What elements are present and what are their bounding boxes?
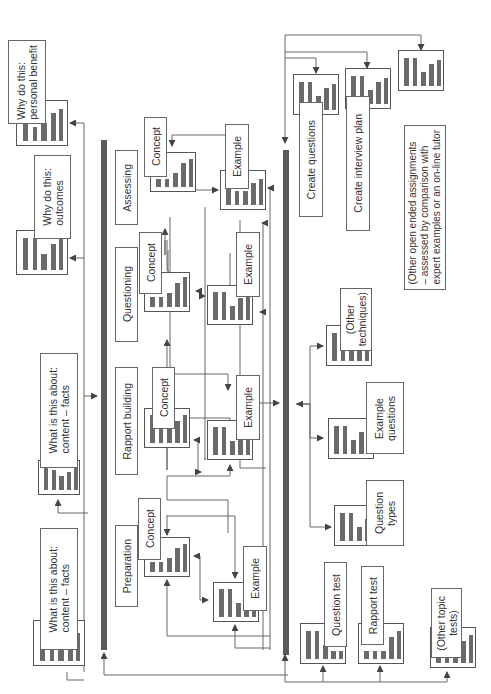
course-structure-diagram: Why do this: personal benefit Why do thi… bbox=[0, 0, 491, 694]
label-assessing-example[interactable]: Example bbox=[225, 124, 249, 189]
label-why-outcomes: Why do this: outcomes bbox=[34, 155, 71, 239]
topic-title-rapport: Rapport building bbox=[115, 367, 138, 475]
label-text: Rapport test bbox=[367, 577, 379, 634]
topic-title-preparation: Preparation bbox=[115, 525, 138, 607]
topic-title-text: Assessing bbox=[121, 164, 133, 212]
note-text: (Other open ended assignments – assessed… bbox=[407, 130, 443, 285]
label-other-topic-tests[interactable]: (Other topic tests) bbox=[431, 588, 462, 658]
topic-title-questioning: Questioning bbox=[115, 247, 138, 342]
topic-title-text: Rapport building bbox=[121, 383, 133, 459]
label-text: (Other topic tests) bbox=[435, 596, 459, 651]
label-create-interview-plan[interactable]: Create interview plan bbox=[346, 96, 370, 231]
label-rapport-example[interactable]: Example bbox=[236, 375, 260, 440]
bar-chart-icon bbox=[43, 465, 75, 490]
right-spine-bar bbox=[283, 150, 289, 655]
label-rapport-test[interactable]: Rapport test bbox=[361, 566, 384, 645]
bar-chart-icon bbox=[403, 55, 439, 86]
label-text: What is this about: content – facts bbox=[47, 367, 71, 453]
label-text: Why do this: outcomes bbox=[41, 168, 65, 226]
label-other-techniques[interactable]: (Other techniques) bbox=[340, 288, 372, 351]
label-rapport-concept[interactable]: Concept bbox=[152, 367, 175, 429]
label-text: Why do this: personal benefit bbox=[15, 45, 39, 120]
label-text: Example bbox=[242, 244, 254, 285]
label-preparation-example[interactable]: Example bbox=[243, 546, 267, 611]
topic-title-text: Questioning bbox=[121, 266, 133, 322]
topic-title-assessing: Assessing bbox=[115, 150, 138, 225]
label-text: Example bbox=[231, 136, 243, 177]
label-what-about-1: What is this about: content – facts bbox=[40, 353, 78, 468]
label-text: Example bbox=[242, 387, 254, 428]
note-open-assignments: (Other open ended assignments – assessed… bbox=[404, 125, 446, 290]
label-text: Example questions bbox=[373, 396, 397, 441]
label-text: Concept bbox=[145, 243, 157, 282]
label-preparation-concept[interactable]: Concept bbox=[138, 498, 161, 560]
label-text: Concept bbox=[150, 127, 162, 166]
label-text: Question test bbox=[330, 574, 342, 636]
label-example-questions[interactable]: Example questions bbox=[366, 382, 404, 454]
label-text: (Other techniques) bbox=[344, 292, 368, 346]
label-text: Create questions bbox=[305, 120, 317, 199]
left-spine-bar bbox=[101, 140, 107, 650]
label-text: Example bbox=[249, 558, 261, 599]
bar-chart-icon bbox=[333, 423, 369, 454]
label-assessing-concept[interactable]: Concept bbox=[144, 117, 167, 177]
label-questioning-concept[interactable]: Concept bbox=[139, 232, 162, 294]
topic-title-text: Preparation bbox=[121, 539, 133, 593]
label-create-questions[interactable]: Create questions bbox=[299, 102, 323, 217]
label-question-test[interactable]: Question test bbox=[324, 562, 347, 647]
label-question-types[interactable]: Question types bbox=[366, 480, 404, 546]
thumbnail-open-assignment[interactable] bbox=[398, 50, 444, 91]
label-text: What is this about: content – facts bbox=[47, 546, 71, 632]
label-text: Concept bbox=[158, 378, 170, 417]
label-questioning-example[interactable]: Example bbox=[236, 232, 260, 297]
bar-chart-icon bbox=[21, 235, 63, 270]
label-why-personal: Why do this: personal benefit bbox=[8, 40, 46, 124]
label-text: Concept bbox=[144, 509, 156, 548]
label-what-about-2: What is this about: content – facts bbox=[40, 528, 78, 650]
label-text: Question types bbox=[373, 492, 397, 534]
label-text: Create interview plan bbox=[352, 114, 364, 213]
